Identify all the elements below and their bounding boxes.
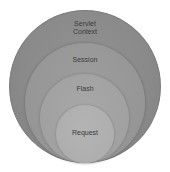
session-label: Session <box>0 56 170 64</box>
servlet-context-label: Servlet Context <box>0 20 170 36</box>
request-label: Request <box>0 129 170 137</box>
servlet-context-label-line2: Context <box>0 28 170 36</box>
flash-label: Flash <box>0 85 170 93</box>
servlet-context-label-line1: Servlet <box>0 20 170 28</box>
